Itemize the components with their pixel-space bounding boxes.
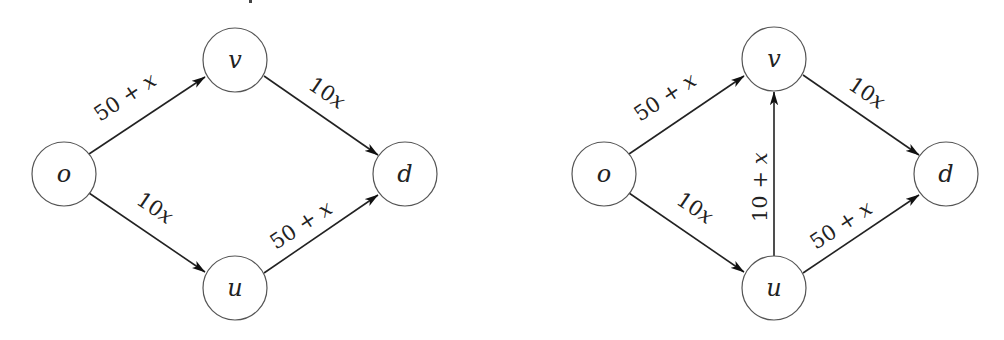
node-u: u [203,256,267,320]
edge-o-u: 10x [89,187,205,272]
svg-text:v: v [767,45,781,73]
edge-label: 50 + x [90,68,161,126]
edge-label: 50 + x [630,68,701,126]
node-o: o [572,142,636,206]
edge-v-d: 10x [264,72,378,155]
svg-text:u: u [766,274,781,302]
edge-label: 10 + x [748,152,772,222]
network-diagrams: 50 + x 10x 10x 50 + x o v u d [0,0,1004,340]
node-v: v [742,27,806,91]
edge-label: 10x [672,187,718,229]
node-d: d [914,142,978,206]
edge-u-d: 50 + x [264,195,378,273]
edge-o-v: 50 + x [629,68,744,154]
edge-label: 10x [132,187,178,229]
diagram-left: 50 + x 10x 10x 50 + x o v u d [32,28,437,320]
edge-u-v: 10 + x [748,92,774,256]
edge-o-v: 50 + x [89,68,205,154]
svg-text:u: u [227,274,242,302]
edge-v-d: 10x [803,72,919,155]
svg-text:d: d [397,160,412,188]
svg-text:o: o [597,160,611,188]
node-d: d [373,142,437,206]
svg-text:v: v [228,46,242,74]
svg-text:o: o [57,160,71,188]
node-v: v [203,28,267,92]
edge-u-d: 50 + x [803,195,919,273]
edge-o-u: 10x [629,187,744,272]
edge-label: 50 + x [266,196,337,254]
node-o: o [32,142,96,206]
edge-label: 10x [304,72,350,114]
diagram-right: 50 + x 10x 10x 10 + x 50 + x o v u [572,27,978,320]
node-u: u [742,256,806,320]
svg-text:d: d [938,160,953,188]
edge-label: 50 + x [806,196,877,254]
cropped-text-fragment [249,0,252,3]
